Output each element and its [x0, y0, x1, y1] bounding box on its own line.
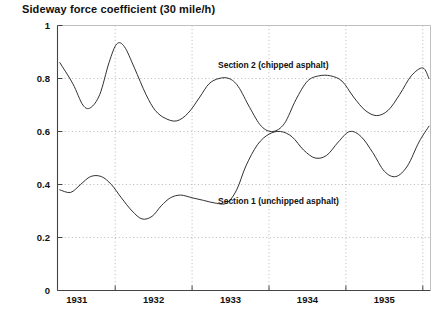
y-tick-label: 0	[14, 285, 50, 296]
y-tick-label: 0.8	[14, 73, 50, 84]
y-tick-label: 1	[14, 20, 50, 31]
y-tick-label: 0.2	[14, 232, 50, 243]
y-tick-label: 0.6	[14, 126, 50, 137]
chart-container: Sideway force coefficient (30 mile/h) 00…	[0, 0, 437, 322]
series-label-section-2: Section 2 (chipped asphalt)	[218, 60, 329, 70]
x-tick-label: 1931	[52, 294, 102, 305]
plot-svg	[0, 0, 437, 322]
x-tick-label: 1934	[282, 294, 332, 305]
x-tick-label: 1935	[359, 294, 409, 305]
series-label-section-1: Section 1 (unchipped asphalt)	[218, 196, 339, 206]
x-tick-label: 1933	[206, 294, 256, 305]
y-tick-label: 0.4	[14, 179, 50, 190]
x-tick-label: 1932	[129, 294, 179, 305]
